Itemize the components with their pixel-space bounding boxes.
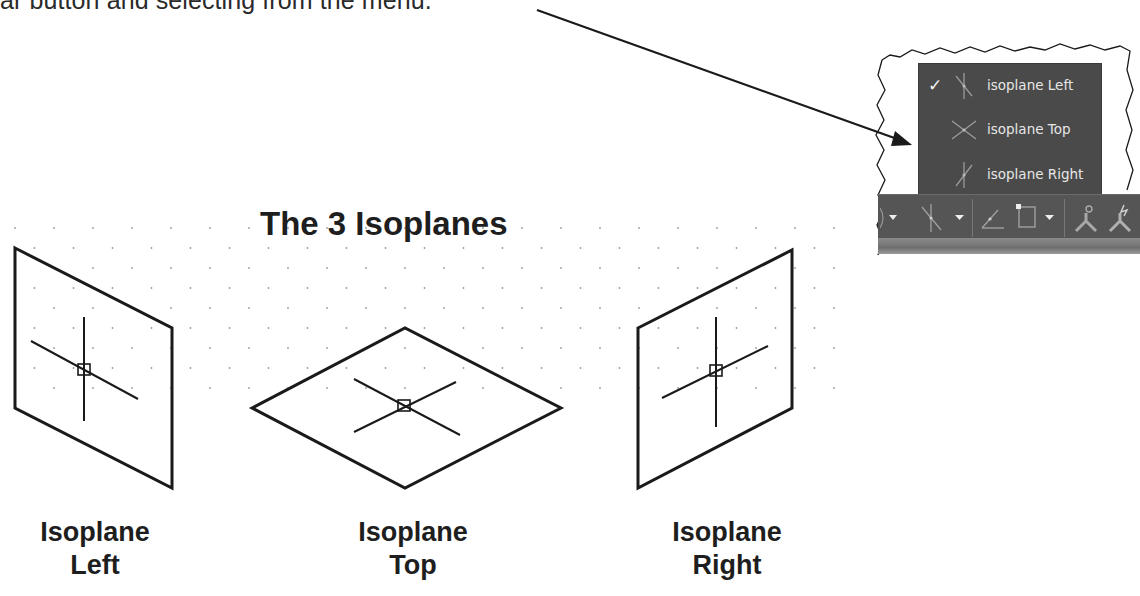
label-line: Isoplane <box>313 516 513 549</box>
label-line: Isoplane <box>0 516 195 549</box>
toolbar-separator <box>1064 199 1065 237</box>
dropdown-arrow-icon[interactable] <box>952 203 968 233</box>
checkmark-icon: ✓ <box>928 75 942 95</box>
isoplane-right-icon <box>949 161 979 189</box>
dropdown-arrow-icon[interactable] <box>880 203 900 233</box>
isoplane-toggle-icon[interactable] <box>916 203 946 233</box>
figure-title: The 3 Isoplanes <box>260 205 508 243</box>
label-line: Top <box>313 549 513 582</box>
isoplane-top-diagram <box>252 328 561 488</box>
isoplane-left-icon <box>949 72 979 100</box>
menu-item-label: isoplane Right <box>987 166 1083 182</box>
isoplane-menu: ✓ isoplane Left isoplane Top isoplane Ri… <box>918 63 1102 196</box>
label-isoplane-left: Isoplane Left <box>0 516 195 582</box>
label-isoplane-top: Isoplane Top <box>313 516 513 582</box>
isoplane-left-diagram <box>15 248 172 488</box>
menu-item-label: isoplane Left <box>987 77 1073 93</box>
label-line: Right <box>627 549 827 582</box>
status-bar-strip <box>878 238 1140 254</box>
callout-arrow <box>537 10 912 146</box>
menu-item-isoplane-left[interactable]: ✓ isoplane Left <box>919 67 1101 105</box>
object-snap-icon[interactable] <box>1012 203 1040 233</box>
label-isoplane-right: Isoplane Right <box>627 516 827 582</box>
toolbar-separator <box>972 199 973 237</box>
menu-item-isoplane-top[interactable]: isoplane Top <box>919 111 1101 149</box>
status-toolbar <box>878 194 1140 239</box>
auto-scale-icon[interactable] <box>1106 203 1136 233</box>
isoplane-top-icon <box>949 116 979 144</box>
menu-item-label: isoplane Top <box>987 121 1071 137</box>
label-line: Isoplane <box>627 516 827 549</box>
isoplane-right-diagram <box>638 250 792 488</box>
polar-tracking-icon[interactable] <box>978 203 1006 233</box>
label-line: Left <box>0 549 195 582</box>
annotation-visibility-icon[interactable] <box>1072 203 1100 233</box>
dropdown-arrow-icon[interactable] <box>1042 203 1058 233</box>
menu-item-isoplane-right[interactable]: isoplane Right <box>919 156 1101 194</box>
